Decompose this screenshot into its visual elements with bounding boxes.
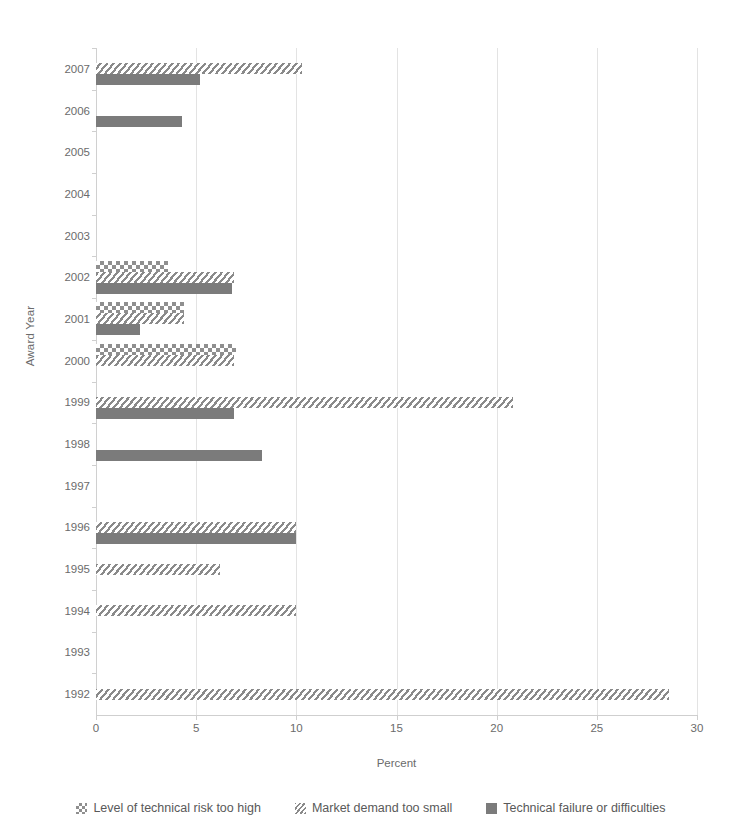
bar-group (96, 215, 697, 257)
y-tick-mark (92, 131, 96, 132)
gridline-30 (697, 48, 698, 715)
bar (96, 313, 184, 324)
bar (96, 450, 262, 461)
y-tick-mark (92, 173, 96, 174)
bar-group (96, 48, 697, 90)
x-tick-mark-5 (196, 715, 197, 720)
x-tick-mark-20 (497, 715, 498, 720)
legend-item[interactable]: Level of technical risk too high (76, 801, 260, 815)
y-tick-label: 1992 (30, 688, 90, 700)
x-tick-mark-10 (296, 715, 297, 720)
bar (96, 689, 669, 700)
bar-group (96, 298, 697, 340)
bar (96, 564, 220, 575)
y-tick-mark (92, 256, 96, 257)
x-tick-label: 30 (677, 722, 717, 734)
bar (96, 605, 296, 616)
legend-label: Technical failure or difficulties (503, 801, 665, 815)
y-tick-label: 2007 (30, 63, 90, 75)
bar (96, 533, 296, 544)
y-tick-label: 1993 (30, 646, 90, 658)
legend-label: Level of technical risk too high (93, 801, 260, 815)
y-tick-label: 1996 (30, 521, 90, 533)
x-tick-label: 0 (76, 722, 116, 734)
x-tick-label: 5 (176, 722, 216, 734)
bar (96, 344, 236, 355)
bar (96, 324, 140, 335)
y-tick-label: 2005 (30, 146, 90, 158)
x-axis-title: Percent (96, 757, 697, 769)
x-tick-mark-0 (96, 715, 97, 720)
legend-swatch-icon (76, 803, 87, 814)
bar (96, 408, 234, 419)
y-tick-label: 2000 (30, 355, 90, 367)
bar-group (96, 465, 697, 507)
bar (96, 397, 513, 408)
bar-group (96, 590, 697, 632)
bar-group (96, 173, 697, 215)
x-tick-mark-15 (397, 715, 398, 720)
y-tick-mark (92, 465, 96, 466)
bar-group (96, 256, 697, 298)
bar-group (96, 673, 697, 715)
y-tick-label: 1995 (30, 563, 90, 575)
y-tick-label: 2003 (30, 230, 90, 242)
y-tick-mark (92, 423, 96, 424)
y-tick-mark (92, 632, 96, 633)
y-tick-mark (92, 590, 96, 591)
y-tick-mark (92, 382, 96, 383)
y-tick-mark (92, 48, 96, 49)
y-tick-label: 2006 (30, 105, 90, 117)
y-tick-label: 1998 (30, 438, 90, 450)
y-tick-mark (92, 215, 96, 216)
y-tick-mark (92, 507, 96, 508)
y-tick-mark (92, 298, 96, 299)
y-tick-mark (92, 90, 96, 91)
legend-swatch-icon (295, 803, 306, 814)
x-tick-mark-30 (697, 715, 698, 720)
x-tick-label: 25 (577, 722, 617, 734)
bar (96, 355, 234, 366)
legend-item[interactable]: Technical failure or difficulties (486, 801, 665, 815)
plot-area (96, 48, 697, 715)
bar (96, 272, 234, 283)
y-tick-mark (92, 673, 96, 674)
bar (96, 63, 302, 74)
bar (96, 261, 168, 272)
legend-item[interactable]: Market demand too small (295, 801, 452, 815)
bar-group (96, 632, 697, 674)
bar-group (96, 90, 697, 132)
legend-label: Market demand too small (312, 801, 452, 815)
bar-group (96, 423, 697, 465)
bar-group (96, 382, 697, 424)
y-tick-label: 2004 (30, 188, 90, 200)
horizontal-bar-chart: Award Year Percent 200720062005200420032… (0, 0, 742, 823)
y-tick-label: 1997 (30, 480, 90, 492)
y-tick-mark (92, 548, 96, 549)
x-tick-label: 10 (276, 722, 316, 734)
y-axis-tick-labels: 2007200620052004200320022001200019991998… (20, 48, 90, 715)
y-tick-label: 2001 (30, 313, 90, 325)
legend-swatch-icon (486, 803, 497, 814)
bar (96, 74, 200, 85)
chart-legend: Level of technical risk too highMarket d… (0, 793, 742, 823)
bar (96, 522, 296, 533)
bar-group (96, 131, 697, 173)
y-tick-label: 1994 (30, 605, 90, 617)
bar (96, 283, 232, 294)
x-tick-label: 20 (477, 722, 517, 734)
x-tick-mark-25 (597, 715, 598, 720)
bar-group (96, 340, 697, 382)
bar (96, 302, 184, 313)
y-tick-mark (92, 340, 96, 341)
x-tick-label: 15 (377, 722, 417, 734)
y-tick-label: 2002 (30, 271, 90, 283)
bar-group (96, 507, 697, 549)
bar-group (96, 548, 697, 590)
y-tick-label: 1999 (30, 396, 90, 408)
bar (96, 116, 182, 127)
